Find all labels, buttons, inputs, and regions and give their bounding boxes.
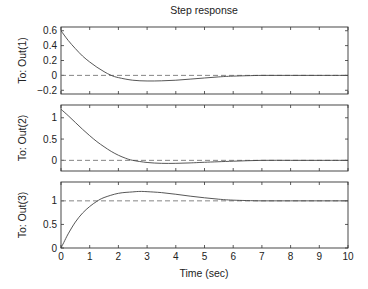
x-tick-label: 6 xyxy=(230,251,236,262)
y-tick-label: 0.5 xyxy=(43,219,57,230)
x-tick-label: 3 xyxy=(144,251,150,262)
y-axis-label: To: Out(3) xyxy=(16,192,28,239)
x-tick-label: 10 xyxy=(342,251,354,262)
x-tick-label: 5 xyxy=(202,251,208,262)
y-tick-label: 0 xyxy=(51,155,57,166)
subplots: −0.200.20.40.6To: Out(1)00.51To: Out(2)0… xyxy=(16,25,354,262)
y-tick-label: 1 xyxy=(51,112,57,123)
step-response-curve xyxy=(61,109,348,163)
subplot-2: 00.51To: Out(2) xyxy=(16,105,348,171)
axes-frame xyxy=(61,105,348,171)
x-tick-label: 4 xyxy=(173,251,179,262)
x-tick-label: 8 xyxy=(288,251,294,262)
y-axis-label: To: Out(2) xyxy=(16,115,28,162)
y-tick-label: 0 xyxy=(51,243,57,254)
x-tick-label: 7 xyxy=(259,251,265,262)
axes-frame xyxy=(61,182,348,248)
chart-title: Step response xyxy=(170,4,238,16)
axes-frame xyxy=(61,27,348,94)
y-tick-label: 0.5 xyxy=(43,134,57,145)
y-tick-label: −0.2 xyxy=(37,85,57,96)
x-tick-label: 0 xyxy=(58,251,64,262)
x-tick-label: 9 xyxy=(317,251,323,262)
y-tick-label: 1 xyxy=(51,195,57,206)
x-tick-label: 2 xyxy=(116,251,122,262)
step-response-curve xyxy=(61,31,348,81)
y-tick-label: 0.4 xyxy=(43,40,57,51)
y-axis-label: To: Out(1) xyxy=(16,37,28,84)
y-tick-label: 0.6 xyxy=(43,25,57,36)
y-tick-label: 0.2 xyxy=(43,55,57,66)
subplot-1: −0.200.20.40.6To: Out(1) xyxy=(16,25,348,96)
x-axis-label: Time (sec) xyxy=(179,267,228,279)
step-response-curve xyxy=(61,191,348,248)
subplot-3: 00.51To: Out(3)012345678910 xyxy=(16,182,354,262)
y-tick-label: 0 xyxy=(51,70,57,81)
step-response-chart: Step response −0.200.20.40.6To: Out(1)00… xyxy=(0,0,368,289)
x-tick-label: 1 xyxy=(87,251,93,262)
